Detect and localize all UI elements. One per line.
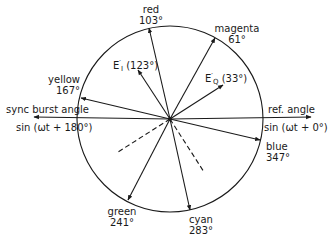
label-green: green 241° [104,206,140,228]
vector-blue [170,119,260,140]
label-sync-formula: sin (ωt + 180°) [16,122,92,133]
label-ref-formula: sin (ωt + 0°) [264,122,328,133]
label-cyan-angle: 283° [189,225,213,236]
label-magenta: magenta 61° [212,23,262,45]
vector-e-i [138,70,170,119]
origin-point [168,117,172,121]
vector-yellow [81,98,170,119]
label-cyan-name: cyan [189,214,213,225]
e-i-angle: (123°) [126,60,158,71]
label-sync-burst: sync burst angle [6,104,89,115]
vector-cyan [170,119,190,210]
label-e-q: E′Q (33°) [205,71,247,88]
ref-angle-axis [170,117,311,119]
dashed-line-303 [170,119,204,172]
e-q-subscript: Q [213,78,219,86]
label-blue-angle: 347° [266,152,290,163]
dashed-line-213 [118,119,170,152]
label-red-angle: 103° [136,15,166,26]
label-green-angle: 241° [104,217,140,228]
sync-burst-axis [34,117,170,119]
label-blue-name: blue [266,141,290,152]
e-q-angle: (33°) [222,73,248,84]
label-red: red 103° [136,4,166,26]
label-cyan: cyan 283° [189,214,213,236]
label-magenta-angle: 61° [212,34,262,45]
label-e-i: E′I (123°) [113,58,158,75]
label-magenta-name: magenta [212,23,262,34]
label-yellow-name: yellow [46,74,80,85]
label-blue: blue 347° [266,141,290,163]
vector-green [128,119,170,200]
label-green-name: green [104,206,140,217]
vector-e-q [170,85,223,119]
label-yellow-angle: 167° [46,85,80,96]
label-yellow: yellow 167° [46,74,80,96]
label-red-name: red [136,4,166,15]
e-i-subscript: I [121,65,123,73]
label-ref-angle: ref. angle [268,104,315,115]
